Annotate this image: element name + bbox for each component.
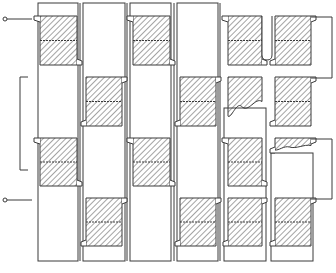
tab-bottom-left	[270, 147, 275, 153]
block-c1-a	[34, 16, 82, 65]
tab-left	[222, 16, 228, 22]
lead-right-upper	[311, 17, 332, 78]
tab-left	[127, 16, 133, 22]
block-c3-c	[127, 138, 175, 186]
tab-bottom-left	[270, 59, 275, 65]
block-c5-a	[222, 16, 267, 65]
block-c6-c	[270, 138, 316, 153]
block-c5-c	[222, 138, 267, 186]
tab-bottom-right	[77, 180, 82, 186]
block-c5-d	[223, 198, 267, 246]
block-c5-b	[228, 77, 262, 116]
tab-left	[127, 138, 133, 144]
block-c6-a	[270, 16, 316, 65]
block-c4-d	[175, 198, 221, 246]
tab-left	[34, 16, 40, 22]
hatched-region	[228, 77, 262, 116]
diagram-canvas	[0, 0, 336, 273]
tab-left	[34, 138, 40, 144]
block-c1-c	[34, 138, 82, 186]
terminal-bottom-left	[3, 198, 32, 202]
tab-bottom-right	[77, 59, 82, 65]
block-c4-b	[175, 77, 221, 126]
tab-bottom-left	[175, 120, 180, 126]
terminal-circle-icon	[3, 17, 7, 21]
plate-assembly-drawing	[0, 0, 336, 273]
tab-bottom-left	[81, 120, 86, 126]
block-c2-d	[81, 198, 127, 246]
notch	[262, 16, 272, 60]
tab-left	[222, 138, 228, 144]
block-c3-a	[127, 16, 175, 65]
hatched-blocks	[34, 16, 316, 246]
lead-left-upper	[20, 77, 28, 170]
tab-right	[122, 77, 127, 83]
tab-bottom-left	[81, 240, 86, 246]
block-c6-b	[270, 77, 316, 126]
lead-right-lower	[311, 139, 332, 199]
block-c6-d	[270, 198, 316, 246]
tab-right	[122, 198, 127, 204]
tab-bottom-left	[270, 120, 275, 126]
terminal-top-left	[3, 17, 32, 21]
terminals	[3, 17, 32, 202]
hatched-region	[275, 138, 311, 150]
tab-bottom-left	[175, 240, 180, 246]
terminal-circle-icon	[3, 198, 7, 202]
block-c2-b	[81, 77, 127, 126]
